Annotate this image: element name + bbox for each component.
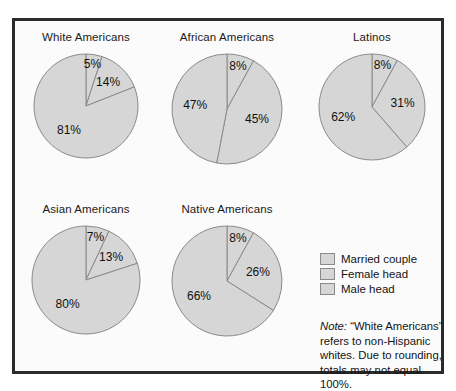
pie-panel-white-americans: White Americans 5%14%81% <box>21 31 151 181</box>
pie-panel-native-americans: Native Americans 8%26%66% <box>155 203 299 353</box>
legend-item-female-head: Female head <box>320 268 448 280</box>
pie-panel-asian-americans: Asian Americans 7%13%80% <box>21 203 151 353</box>
pie-title-native-americans: Native Americans <box>155 203 299 215</box>
figure-frame: White Americans 5%14%81% African America… <box>12 18 444 374</box>
pie-slice-label: 13% <box>99 250 123 264</box>
legend-swatch-icon-married-couple <box>320 253 335 265</box>
pie-chart-african-americans: 8%45%47% <box>171 53 283 165</box>
pie-chart-native-americans: 8%26%66% <box>171 225 283 337</box>
pie-slice-label: 45% <box>245 112 269 126</box>
pie-slice-label: 80% <box>56 297 80 311</box>
pie-chart-asian-americans: 7%13%80% <box>31 225 141 335</box>
legend-label-married-couple: Married couple <box>341 253 417 265</box>
pie-slice-label: 26% <box>246 265 270 279</box>
pie-slice-label: 47% <box>183 98 207 112</box>
pie-title-asian-americans: Asian Americans <box>21 203 151 215</box>
pie-panel-african-americans: African Americans 8%45%47% <box>155 31 299 181</box>
legend-item-married-couple: Married couple <box>320 253 448 265</box>
pie-panel-latinos: Latinos 8%31%62% <box>303 31 441 181</box>
pie-slice-label: 8% <box>374 58 392 72</box>
pie-title-african-americans: African Americans <box>155 31 299 43</box>
pie-slice-label: 7% <box>87 230 105 244</box>
legend-item-male-head: Male head <box>320 283 448 295</box>
pie-slice-label: 5% <box>84 57 102 71</box>
pie-chart-latinos: 8%31%62% <box>318 53 426 161</box>
pie-slice-label: 66% <box>187 289 211 303</box>
pie-slice-label: 81% <box>57 123 81 137</box>
legend-label-female-head: Female head <box>341 268 408 280</box>
pie-slice-label: 14% <box>96 75 120 89</box>
pie-slice-label: 31% <box>391 96 415 110</box>
legend-label-male-head: Male head <box>341 283 395 295</box>
pie-slice-label: 8% <box>229 231 247 245</box>
pie-slice-label: 8% <box>229 59 247 73</box>
legend-swatch-icon-male-head <box>320 283 335 295</box>
note-label: Note: <box>320 320 347 332</box>
pie-chart-white-americans: 5%14%81% <box>33 53 139 159</box>
pie-slice-label: 62% <box>331 110 355 124</box>
pie-title-latinos: Latinos <box>303 31 441 43</box>
pie-title-white-americans: White Americans <box>21 31 151 43</box>
legend-swatch-icon-female-head <box>320 268 335 280</box>
legend: Married couple Female head Male head <box>320 253 448 298</box>
figure-note: Note: “White Americans” refers to non-Hi… <box>320 319 454 391</box>
